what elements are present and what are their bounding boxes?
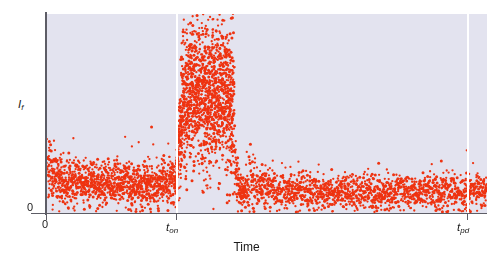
y-axis-title: If — [18, 98, 23, 112]
x-axis-line — [31, 213, 487, 214]
y-axis-title-subscript: f — [21, 103, 23, 112]
x-tick-mark-tpd — [467, 214, 468, 220]
x-tick-label-tpd: tpd — [457, 221, 469, 235]
x-tick-label-0: 0 — [42, 218, 48, 230]
plot-area — [47, 14, 487, 213]
x-tick-label-tpd-subscript: pd — [460, 226, 469, 235]
fluorescence-time-trace-figure: 0 0 ton tpd If Time — [0, 0, 493, 263]
marker-line-t_on — [176, 14, 178, 213]
x-tick-label-ton-subscript: on — [169, 226, 178, 235]
x-axis-title: Time — [0, 240, 493, 254]
y-axis-line — [45, 12, 47, 215]
scatter-points-layer — [47, 14, 487, 213]
x-tick-mark-ton — [176, 214, 177, 220]
x-tick-label-ton: ton — [166, 221, 178, 235]
marker-line-t_pd — [467, 14, 469, 213]
y-tick-label-0: 0 — [27, 201, 33, 213]
